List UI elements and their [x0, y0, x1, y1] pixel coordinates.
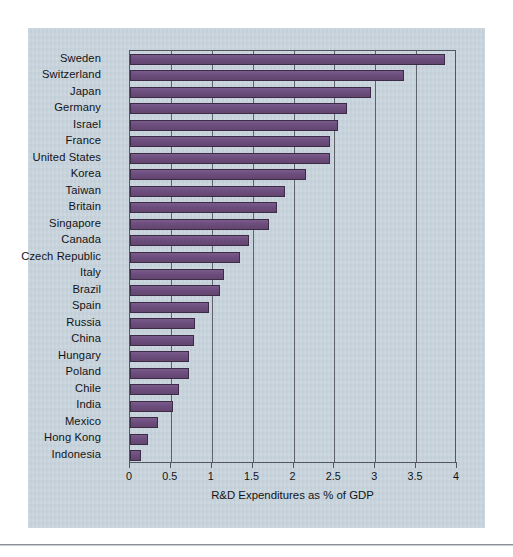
x-axis-tick [129, 462, 130, 468]
category-label: Poland [66, 363, 101, 380]
page-divider-rule-shadow [0, 545, 513, 546]
category-label: Italy [80, 264, 101, 281]
x-axis-tick-label: 3.5 [408, 470, 423, 482]
bar [130, 368, 189, 379]
category-label: United States [33, 149, 101, 166]
bar [130, 153, 330, 164]
category-label: Singapore [49, 215, 101, 232]
category-label: Chile [75, 380, 101, 397]
category-label: Canada [61, 231, 101, 248]
category-label: Czech Republic [21, 248, 101, 265]
x-axis-tick [374, 462, 375, 468]
x-axis-tick-label: 1.5 [244, 470, 259, 482]
bar [130, 335, 194, 346]
x-axis-tick-label: 1 [208, 470, 214, 482]
bar [130, 384, 179, 395]
category-label: Russia [66, 314, 101, 331]
category-label: Brazil [72, 281, 101, 298]
bar [130, 401, 173, 412]
bar [130, 120, 338, 131]
x-axis-title: R&D Expenditures as % of GDP [129, 489, 456, 501]
figure-root: SwedenSwitzerlandJapanGermanyIsraelFranc… [0, 0, 513, 557]
x-axis-tick [415, 462, 416, 468]
bars-layer [130, 51, 455, 462]
bar [130, 252, 240, 263]
category-label: Korea [71, 165, 101, 182]
category-label: Germany [54, 99, 101, 116]
category-label: Britain [69, 198, 101, 215]
bar [130, 54, 445, 65]
bar [130, 351, 189, 362]
bar [130, 70, 404, 81]
bar [130, 169, 306, 180]
bar [130, 434, 148, 445]
category-label: Hong Kong [44, 429, 101, 446]
category-label: Mexico [65, 413, 101, 430]
category-label: Hungary [58, 347, 101, 364]
bar [130, 87, 371, 98]
x-axis-tick [211, 462, 212, 468]
bar [130, 269, 224, 280]
bar [130, 186, 285, 197]
x-axis-tick [333, 462, 334, 468]
x-axis-tick-label: 0 [126, 470, 132, 482]
x-axis-tick [293, 462, 294, 468]
category-label: Taiwan [66, 182, 101, 199]
x-axis-tick-label: 4 [453, 470, 459, 482]
bar [130, 235, 249, 246]
x-axis-tick-label: 2.5 [326, 470, 341, 482]
x-axis-tick [252, 462, 253, 468]
category-label: Israel [73, 116, 101, 133]
bar [130, 417, 158, 428]
category-axis: SwedenSwitzerlandJapanGermanyIsraelFranc… [10, 50, 101, 463]
category-label: Indonesia [52, 446, 101, 463]
category-label: Sweden [60, 50, 101, 67]
bar [130, 202, 277, 213]
x-axis-tick-label: 2 [289, 470, 295, 482]
category-label: Switzerland [42, 66, 101, 83]
x-axis-tick [456, 462, 457, 468]
bar [130, 318, 195, 329]
x-axis-tick [170, 462, 171, 468]
category-label: France [66, 132, 101, 149]
bar [130, 103, 347, 114]
bar [130, 136, 330, 147]
bar [130, 450, 141, 461]
x-axis-tick-label: 3 [371, 470, 377, 482]
category-label: China [71, 330, 101, 347]
category-label: India [76, 396, 101, 413]
plot-area [129, 50, 456, 463]
bar [130, 285, 220, 296]
category-label: Spain [72, 297, 101, 314]
bar [130, 219, 269, 230]
bar [130, 302, 209, 313]
category-label: Japan [70, 83, 101, 100]
x-axis-tick-label: 0.5 [162, 470, 177, 482]
